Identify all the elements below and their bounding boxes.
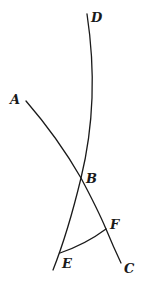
label-b: B xyxy=(85,171,97,186)
label-e: E xyxy=(61,256,73,271)
arc-e-f xyxy=(60,229,106,253)
geometry-diagram: D A B F E C xyxy=(0,0,146,289)
arc-d-b-e xyxy=(53,14,92,270)
line-a-c xyxy=(26,101,121,263)
label-d: D xyxy=(90,10,103,25)
label-a: A xyxy=(8,92,20,107)
label-c: C xyxy=(124,261,135,276)
label-f: F xyxy=(109,217,120,232)
